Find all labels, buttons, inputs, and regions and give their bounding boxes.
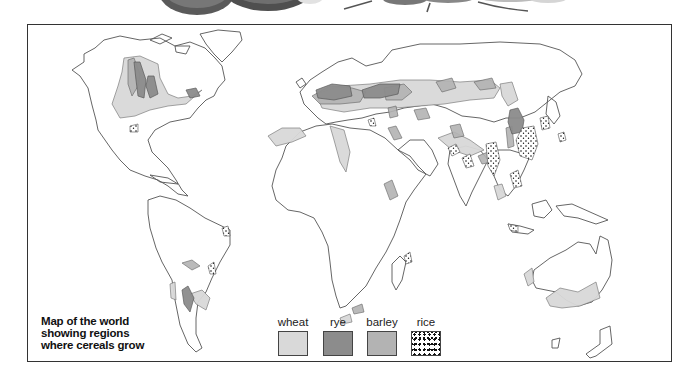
- map-caption: Map of the world showing regions where c…: [41, 315, 144, 351]
- rye-swatch-icon: [323, 331, 353, 356]
- legend-item-rice: rice: [403, 316, 449, 356]
- new-zealand-outline: [586, 326, 612, 358]
- wheat-swatch-icon: [278, 331, 308, 356]
- legend-label-rice: rice: [403, 316, 449, 330]
- caption-line-3: where cereals grow: [41, 339, 144, 351]
- legend-item-rye: rye: [315, 316, 361, 356]
- legend-item-wheat: wheat: [270, 316, 316, 356]
- legend-label-barley: barley: [359, 316, 405, 330]
- caption-line-1: Map of the world: [41, 315, 144, 327]
- south-america-outline: [148, 196, 230, 352]
- greenland-outline: [200, 30, 242, 62]
- caption-line-2: showing regions: [41, 327, 144, 339]
- madagascar-outline: [392, 256, 406, 290]
- legend-label-wheat: wheat: [270, 316, 316, 330]
- rice-swatch-icon: [411, 331, 441, 356]
- barley-swatch-icon: [367, 331, 397, 356]
- legend-item-barley: barley: [359, 316, 405, 356]
- legend-label-rye: rye: [315, 316, 361, 330]
